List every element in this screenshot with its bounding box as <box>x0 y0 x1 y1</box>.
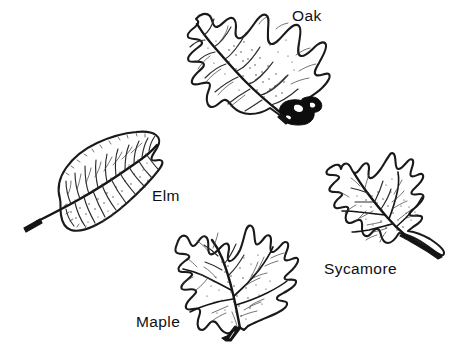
sycamore-label: Sycamore <box>324 260 397 277</box>
leaf-identification-figure: Oak <box>0 0 466 364</box>
oak-label: Oak <box>292 7 322 24</box>
elm-label: Elm <box>152 187 180 204</box>
maple-label: Maple <box>136 313 180 330</box>
